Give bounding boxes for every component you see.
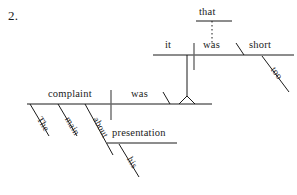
- predicate-adjective-slant: [236, 43, 244, 55]
- word-short: short: [249, 39, 271, 50]
- main-complement-slant: [163, 92, 170, 104]
- word-it: it: [165, 39, 171, 50]
- pedestal-left-leg: [179, 96, 187, 104]
- word-complaint: complaint: [48, 88, 92, 99]
- pedestal-right-leg: [187, 96, 195, 104]
- word-that: that: [199, 6, 216, 17]
- diagram-canvas: 2.: [0, 0, 297, 195]
- word-was-lower: was: [131, 88, 148, 99]
- word-presentation: presentation: [112, 127, 166, 138]
- word-was-upper: was: [203, 39, 220, 50]
- sentence-diagram-lines: [0, 0, 297, 195]
